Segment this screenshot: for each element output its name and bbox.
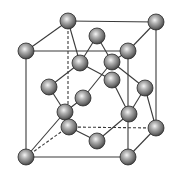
- atom-face-center-left: [41, 79, 57, 95]
- atom-corner-front-top-right: [120, 43, 136, 59]
- atom-corner-front-bottom-left: [18, 149, 34, 165]
- atom-interior-4: [121, 106, 137, 122]
- atom-corner-back-bottom-left: [61, 119, 77, 135]
- atom-corner-front-bottom-right: [120, 149, 136, 165]
- atom-corner-back-bottom-right: [148, 120, 164, 136]
- atom-face-center-front: [57, 104, 73, 120]
- crystal-lattice-diagram: [0, 0, 178, 181]
- atom-corner-back-top-right: [148, 14, 164, 30]
- atom-face-center-back: [104, 72, 120, 88]
- atom-corner-back-top-left: [60, 13, 76, 29]
- atom-face-center-bottom: [89, 133, 105, 149]
- cube-edge: [68, 21, 156, 22]
- atom-face-center-top: [89, 28, 105, 44]
- atom-face-center-right: [137, 80, 153, 96]
- atom-corner-front-top-left: [18, 43, 34, 59]
- atom-interior-2: [104, 54, 120, 70]
- bond: [26, 112, 65, 157]
- atom-interior-3: [75, 90, 91, 106]
- atom-interior-1: [72, 55, 88, 71]
